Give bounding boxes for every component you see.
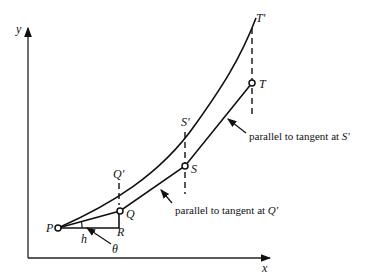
point-P <box>55 225 61 231</box>
label-Q: Q <box>126 207 135 221</box>
exact-solution-curve <box>58 18 256 228</box>
label-S: S <box>191 162 197 176</box>
label-T-prime: T' <box>256 11 266 25</box>
theta-angle-arc <box>82 222 83 228</box>
point-Q <box>117 208 123 214</box>
label-theta: θ <box>112 242 118 256</box>
y-axis-label: y <box>15 22 22 36</box>
x-axis-label: x <box>261 261 268 275</box>
annotation-Q-prime: parallel to tangent at Q' <box>175 204 279 216</box>
point-T <box>249 80 255 86</box>
annotation-arrow-Q-prime <box>161 190 172 203</box>
label-S-prime: S' <box>181 115 190 129</box>
annotation-arrow-S-prime <box>228 119 246 133</box>
annotation-S-prime: parallel to tangent at S' <box>249 130 350 142</box>
point-S <box>182 163 188 169</box>
label-P: P <box>45 221 54 235</box>
theta-pointer-arrow <box>87 228 111 244</box>
euler-method-diagram: y x P Q Q' R S S' T T' h θ parallel to t… <box>0 0 374 280</box>
label-Q-prime: Q' <box>113 167 125 181</box>
label-R: R <box>116 225 125 239</box>
label-T: T <box>259 77 267 91</box>
label-h: h <box>81 232 87 246</box>
